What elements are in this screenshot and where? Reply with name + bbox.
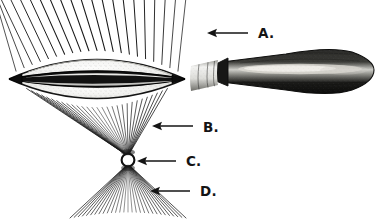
label-d: D. (200, 183, 217, 199)
label-a: A. (258, 25, 274, 41)
converging-ray (128, 97, 147, 156)
incident-ray (79, 0, 97, 50)
incident-ray (170, 0, 176, 68)
focal-point-upper-shade (121, 149, 135, 155)
figure-canvas: A. B. C. D. (0, 0, 384, 221)
incident-ray (133, 0, 137, 56)
converging-ray (77, 106, 128, 156)
burning-glass-lens (0, 36, 200, 124)
diverging-ray (128, 164, 165, 215)
focal-point-group (121, 149, 135, 171)
handle-neck (216, 58, 228, 86)
label-c: C. (186, 153, 201, 169)
focal-point-lower-shade (121, 165, 135, 171)
incident-ray (112, 0, 122, 53)
focal-point-circle (122, 154, 135, 167)
incident-ray (90, 0, 105, 51)
converging-ray (67, 104, 128, 156)
incident-ray (38, 0, 65, 54)
diverging-ray (95, 164, 128, 214)
converging-ray (128, 95, 152, 156)
diverging-ray (87, 164, 128, 215)
diverging-ray (91, 164, 128, 215)
incident-ray (69, 0, 89, 51)
incident-ray (154, 0, 155, 61)
incident-ray (144, 0, 145, 59)
converging-ray (82, 107, 128, 156)
label-b: B. (203, 119, 219, 135)
incident-ray (162, 0, 166, 64)
diverging-ray (74, 164, 128, 217)
incident-ray (178, 0, 186, 71)
incident-ray (28, 0, 57, 56)
diverging-ray (128, 164, 169, 215)
incident-ray (123, 0, 130, 54)
lens-handle (190, 46, 376, 98)
burning-glass-figure: A. B. C. D. (0, 0, 384, 221)
